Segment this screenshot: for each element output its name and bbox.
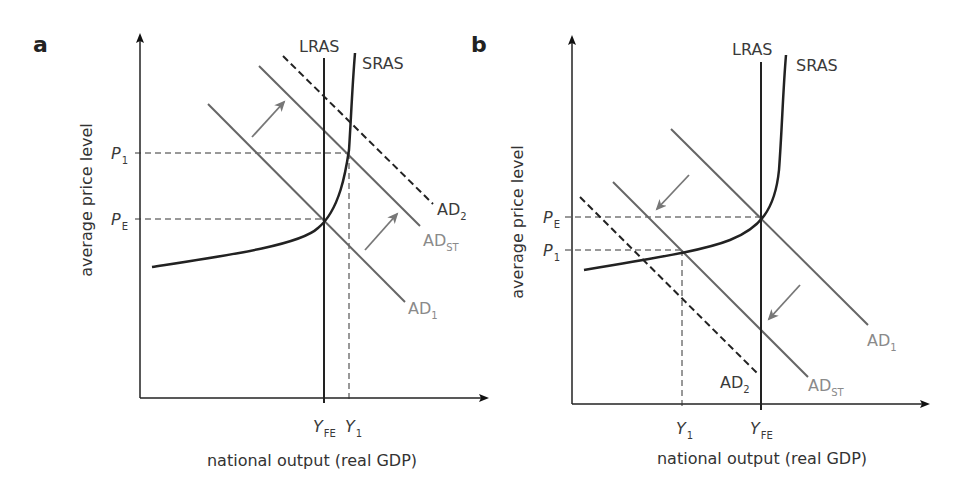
y-axis-title: average price level [77, 123, 96, 277]
adst-label: ADST [808, 376, 845, 398]
sras-curve [584, 55, 786, 270]
ad1-line [208, 104, 405, 302]
pe-tick-label: PE [543, 208, 560, 230]
yfe-tick-label: YFE [313, 417, 336, 439]
panel-b: b average price level national output (r… [471, 32, 925, 468]
panel-b-label: b [471, 32, 487, 57]
adst-line [613, 182, 808, 377]
shift-arrow-icon [252, 102, 284, 137]
ad2-line [580, 197, 757, 373]
y-axis-title: average price level [508, 145, 527, 299]
y1-tick-label: Y1 [345, 417, 362, 439]
panel-a-label: a [33, 32, 48, 57]
pe-tick-label: PE [111, 210, 128, 232]
shift-arrow-icon [769, 285, 800, 319]
p1-tick-label: P1 [543, 241, 560, 263]
shift-arrow-icon [657, 175, 689, 209]
ad2-label: AD2 [720, 373, 750, 395]
shift-arrow-icon [365, 214, 397, 250]
adst-line [259, 66, 420, 226]
ad-as-diagram: a average price level national output (r… [0, 0, 965, 489]
adst-label: ADST [423, 231, 460, 253]
yfe-tick-label: YFE [750, 419, 773, 441]
lras-label: LRAS [299, 37, 339, 56]
sras-label: SRAS [796, 56, 838, 75]
p1-tick-label: P1 [111, 144, 128, 166]
ad2-line [283, 56, 433, 204]
ad1-label: AD1 [408, 299, 438, 321]
ad1-label: AD1 [867, 331, 897, 353]
x-axis-title: national output (real GDP) [207, 451, 417, 470]
ad1-line [671, 129, 868, 325]
y1-tick-label: Y1 [676, 419, 693, 441]
panel-a: a average price level national output (r… [33, 32, 484, 470]
sras-label: SRAS [362, 54, 404, 73]
lras-label: LRAS [732, 40, 772, 59]
ad2-label: AD2 [437, 200, 467, 222]
x-axis-title: national output (real GDP) [657, 449, 867, 468]
